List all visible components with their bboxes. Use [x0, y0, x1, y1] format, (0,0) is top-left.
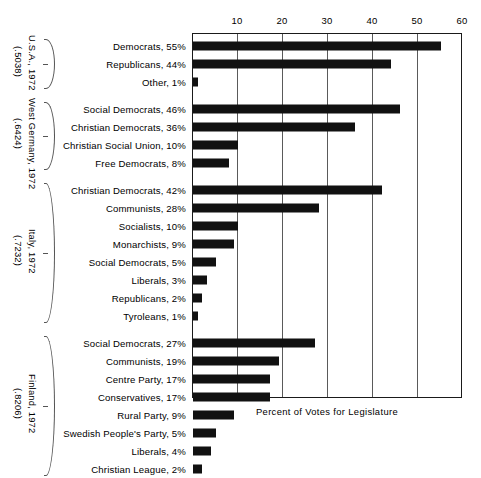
bar-row: Christian Democrats, 42% [0, 181, 481, 199]
bar-row: Tyroleans, 1% [0, 307, 481, 325]
bar-row-label: Social Democrats, 46% [83, 104, 186, 115]
bar-row-label: Communists, 28% [106, 203, 186, 214]
bar-row: Republicans, 44% [0, 55, 481, 73]
bar-row-label: Social Democrats, 27% [83, 338, 186, 349]
bar-row-label: Republicans, 2% [112, 293, 186, 304]
bar-row: Christian Democrats, 36% [0, 118, 481, 136]
bar-row: Conservatives, 17% [0, 388, 481, 406]
x-axis-tick-labels: 102030405060 [0, 0, 481, 33]
bar [193, 159, 229, 168]
bar-row-label: Christian Democrats, 42% [71, 185, 186, 196]
bar-row-label: Liberals, 4% [131, 446, 186, 457]
bar-row-label: Liberals, 3% [131, 275, 186, 286]
bar [193, 258, 216, 267]
bar-row: Communists, 28% [0, 199, 481, 217]
x-tick-50: 50 [411, 15, 422, 26]
bar [193, 141, 238, 150]
x-axis-title: Percent of Votes for Legislature [192, 406, 462, 417]
bar-row: Socialists, 10% [0, 217, 481, 235]
bar [193, 42, 441, 51]
bar-row-label: Christian Social Union, 10% [63, 140, 186, 151]
bar-row-label: Social Democrats, 5% [89, 257, 186, 268]
bar [193, 204, 319, 213]
bar [193, 240, 234, 249]
bar [193, 60, 391, 69]
bar-row-label: Christian Democrats, 36% [71, 122, 186, 133]
bar-row-label: Free Democrats, 8% [95, 158, 186, 169]
bar-row: Other, 1% [0, 73, 481, 91]
bar [193, 105, 400, 114]
bar-row: Liberals, 3% [0, 271, 481, 289]
country-name: U.S.A., 1972 [25, 35, 40, 89]
country-name: West Germany, 1972 [25, 98, 40, 170]
country-group-label: West Germany, 1972(.6424) [10, 98, 39, 170]
bar [193, 186, 382, 195]
bar [193, 393, 270, 402]
bar-row-label: Other, 1% [142, 77, 186, 88]
bar-row: Christian Social Union, 10% [0, 136, 481, 154]
x-tick-20: 20 [276, 15, 287, 26]
bar [193, 465, 202, 474]
bar [193, 276, 207, 285]
bar-row-label: Republicans, 44% [106, 59, 186, 70]
bar [193, 123, 355, 132]
bar-row-label: Rural Party, 9% [117, 410, 186, 421]
x-tick-10: 10 [231, 15, 242, 26]
country-index-value: (.6424) [10, 98, 25, 170]
country-index-value: (.8206) [10, 332, 25, 476]
bar [193, 339, 315, 348]
bar-row: Free Democrats, 8% [0, 154, 481, 172]
bar-row-label: Conservatives, 17% [98, 392, 186, 403]
country-group-label: U.S.A., 1972(.5038) [10, 35, 39, 89]
bar-row: Centre Party, 17% [0, 370, 481, 388]
bar-row: Swedish People's Party, 5% [0, 424, 481, 442]
bar [193, 447, 211, 456]
bar-row: Democrats, 55% [0, 37, 481, 55]
bar [193, 294, 202, 303]
bar-row: Christian League, 2% [0, 460, 481, 478]
country-index-value: (.7232) [10, 179, 25, 323]
bar-row-label: Socialists, 10% [119, 221, 186, 232]
bar [193, 429, 216, 438]
bar-row-label: Communists, 19% [106, 356, 186, 367]
bar [193, 357, 279, 366]
bar [193, 312, 198, 321]
bar-row-label: Centre Party, 17% [106, 374, 186, 385]
bar [193, 375, 270, 384]
bar-row: Communists, 19% [0, 352, 481, 370]
x-tick-30: 30 [321, 15, 332, 26]
x-tick-40: 40 [366, 15, 377, 26]
bar [193, 78, 198, 87]
bar-row-label: Christian League, 2% [91, 464, 186, 475]
bar [193, 222, 238, 231]
bar-row-label: Monarchists, 9% [113, 239, 186, 250]
bar-row: Monarchists, 9% [0, 235, 481, 253]
bar-row: Social Democrats, 27% [0, 334, 481, 352]
bar-row: Republicans, 2% [0, 289, 481, 307]
bar-row: Liberals, 4% [0, 442, 481, 460]
country-index-value: (.5038) [10, 35, 25, 89]
bar-row-label: Democrats, 55% [113, 41, 186, 52]
country-name: Italy, 1972 [25, 179, 40, 323]
bar-row-label: Tyroleans, 1% [123, 311, 186, 322]
bar-row: Social Democrats, 5% [0, 253, 481, 271]
x-tick-60: 60 [456, 15, 467, 26]
bar-row: Social Democrats, 46% [0, 100, 481, 118]
country-name: Finland, 1972 [25, 332, 40, 476]
country-group-label: Finland, 1972(.8206) [10, 332, 39, 476]
country-group-label: Italy, 1972(.7232) [10, 179, 39, 323]
bar-row-label: Swedish People's Party, 5% [63, 428, 186, 439]
